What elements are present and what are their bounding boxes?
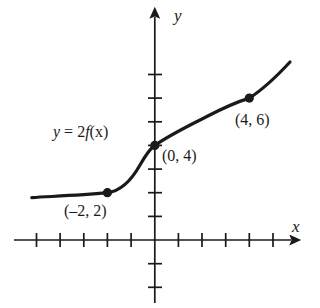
data-point-neg2-2 — [103, 188, 112, 197]
point-label-neg2-2: (–2, 2) — [64, 203, 107, 219]
curve-equation-label: y = 2f(x) — [53, 124, 108, 140]
data-point-4-6 — [245, 94, 254, 103]
x-axis — [14, 233, 291, 247]
point-label-0-4: (0, 4) — [162, 148, 197, 164]
equation-argument: (x) — [90, 123, 109, 140]
graph-figure: y x y = 2f(x) (0, 4) (4, 6) (–2, 2) — [0, 0, 320, 308]
x-axis-label: x — [292, 218, 300, 235]
point-label-4-6: (4, 6) — [235, 112, 270, 128]
y-axis — [148, 17, 162, 303]
equation-equals: = 2 — [60, 123, 85, 140]
data-point-0-4 — [150, 141, 159, 150]
y-axis-label: y — [174, 7, 182, 24]
coordinate-plane — [0, 0, 320, 308]
